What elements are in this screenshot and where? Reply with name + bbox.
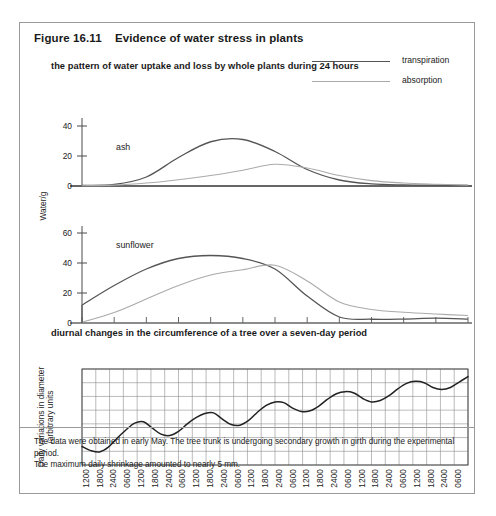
x-tick-label: 1200 xyxy=(136,469,146,488)
x-tick-label: 2400 xyxy=(384,469,394,488)
panel-label-sunflower: sunflower xyxy=(116,240,154,250)
sunflower-y-tick-label: 40 xyxy=(63,258,73,268)
x-tick-label: 0600 xyxy=(177,469,187,488)
ash-series-absorption xyxy=(82,164,468,185)
x-tick-label: 1200 xyxy=(191,469,201,488)
figure-number: Figure 16.11 xyxy=(34,32,102,44)
y-axis-label: Water/g xyxy=(38,191,48,220)
x-tick-label: 0600 xyxy=(233,469,243,488)
legend-item-transpiration: transpiration xyxy=(312,55,482,69)
x-tick-label: 1800 xyxy=(315,469,325,488)
x-tick-label: 0600 xyxy=(398,469,408,488)
subtitle-tree-circumference: diurnal changes in the circumference of … xyxy=(51,328,367,338)
chart-tree-circumference: 1200180024000600120018002400060012001800… xyxy=(20,353,476,493)
x-tick-label: 0600 xyxy=(343,469,353,488)
x-tick-label: 1200 xyxy=(412,469,422,488)
figure-caption: The data were obtained in early May. The… xyxy=(34,436,464,471)
x-tick-label: 0600 xyxy=(288,469,298,488)
x-tick-label: 0600 xyxy=(122,469,132,488)
x-tick-label: 1200 xyxy=(357,469,367,488)
x-tick-label: 0600 xyxy=(453,469,463,488)
x-tick-label: 1800 xyxy=(150,469,160,488)
sunflower-y-tick-label: 20 xyxy=(63,288,73,298)
x-tick-label: 2400 xyxy=(329,469,339,488)
ash-y-tick-label: 0 xyxy=(67,181,72,191)
sunflower-y-tick-label: 60 xyxy=(63,228,73,238)
tree-circumference-svg: 1200180024000600120018002400060012001800… xyxy=(20,353,476,493)
x-tick-label: 1800 xyxy=(95,469,105,488)
sunflower-series-absorption xyxy=(82,265,468,322)
ash-y-tick-label: 20 xyxy=(63,151,73,161)
x-tick-label: 1800 xyxy=(370,469,380,488)
panel-label-ash: ash xyxy=(116,142,130,152)
legend-line-transpiration xyxy=(312,61,390,62)
x-tick-label: 2400 xyxy=(274,469,284,488)
figure-title-text: Evidence of water stress in plants xyxy=(115,32,304,44)
x-tick-label: 1800 xyxy=(426,469,436,488)
x-tick-label: 1800 xyxy=(260,469,270,488)
figure-container: Figure 16.11 Evidence of water stress in… xyxy=(19,22,475,494)
legend-label-transpiration: transpiration xyxy=(402,55,449,65)
x-tick-label: 1200 xyxy=(81,469,91,488)
x-tick-label: 2400 xyxy=(164,469,174,488)
x-tick-label: 0400 xyxy=(427,326,446,328)
sunflower-y-tick-label: 0 xyxy=(67,318,72,328)
caption-divider xyxy=(20,427,474,428)
x-tick-label: 0200 xyxy=(394,326,413,328)
figure-title: Figure 16.11 Evidence of water stress in… xyxy=(34,32,304,44)
x-tick-label: 2400 xyxy=(219,469,229,488)
x-tick-label: 1200 xyxy=(301,469,311,488)
x-tick-label: 1200 xyxy=(246,469,256,488)
x-tick-label: 2400 xyxy=(108,469,118,488)
chart-water-uptake: 020400204060Water/g060008001000120014001… xyxy=(20,78,476,328)
ash-y-tick-label: 40 xyxy=(63,121,73,131)
x-tick-label: 0600 xyxy=(459,326,476,328)
ash-series-transpiration xyxy=(82,139,468,186)
x-tick-label: 2400 xyxy=(439,469,449,488)
water-uptake-svg: 020400204060Water/g060008001000120014001… xyxy=(20,78,476,328)
x-tick-label: 1800 xyxy=(205,469,215,488)
